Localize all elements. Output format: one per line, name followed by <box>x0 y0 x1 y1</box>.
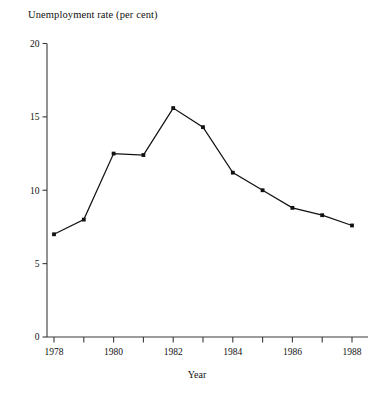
x-axis-title: Year <box>0 369 380 380</box>
unemployment-rate-chart: Unemployment rate (per cent) 05101520 19… <box>0 0 380 397</box>
y-tick-label: 10 <box>30 186 40 196</box>
data-point-marker <box>171 106 175 110</box>
data-point-marker <box>142 153 146 157</box>
x-tick-label: 1982 <box>164 347 183 357</box>
data-point-marker <box>291 206 295 210</box>
chart-plot-area: 05101520 197819801982198419861988 <box>0 0 380 397</box>
data-point-marker <box>350 224 354 228</box>
x-tick-label: 1980 <box>104 347 123 357</box>
data-point-marker <box>82 218 86 222</box>
y-axis-ticks: 05101520 <box>30 39 47 343</box>
data-point-marker <box>52 232 56 236</box>
x-tick-label: 1984 <box>223 347 242 357</box>
x-axis-ticks: 197819801982198419861988 <box>45 337 362 357</box>
x-axis-title-text: Year <box>188 369 206 380</box>
chart-axes <box>47 44 368 338</box>
y-tick-label: 15 <box>30 112 40 122</box>
y-tick-label: 5 <box>35 259 40 269</box>
x-tick-label: 1978 <box>45 347 64 357</box>
y-tick-label: 0 <box>35 332 40 342</box>
data-point-marker <box>112 152 116 156</box>
x-tick-label: 1988 <box>343 347 362 357</box>
data-point-marker <box>201 125 205 129</box>
x-tick-label: 1986 <box>283 347 302 357</box>
data-point-marker <box>320 213 324 217</box>
data-point-marker <box>231 171 235 175</box>
data-point-marker <box>261 188 265 192</box>
y-tick-label: 20 <box>30 39 40 49</box>
data-point-markers <box>52 106 354 236</box>
